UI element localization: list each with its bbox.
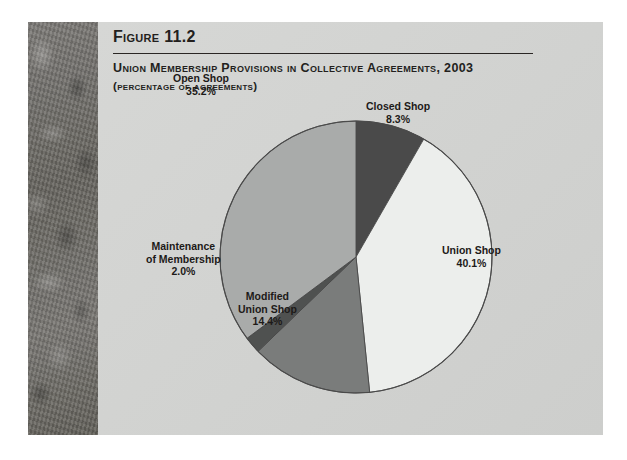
slice-label-value: 40.1%: [442, 257, 501, 270]
slice-label-value: 14.4%: [238, 315, 297, 328]
slice-label-name: Open Shop: [173, 72, 229, 84]
slice-label-name-line1: Maintenance: [152, 240, 216, 252]
slice-label-modified-union-shop: Modified Union Shop 14.4%: [238, 290, 297, 328]
slice-label-closed-shop: Closed Shop 8.3%: [366, 100, 430, 125]
slice-label-open-shop: Open Shop 35.2%: [173, 72, 229, 97]
slice-label-value: 35.2%: [173, 85, 229, 98]
slice-label-name: Closed Shop: [366, 100, 430, 112]
slice-label-union-shop: Union Shop 40.1%: [442, 244, 501, 269]
pie-chart: Closed Shop 8.3% Union Shop 40.1% Modifi…: [98, 22, 603, 435]
slice-label-name: Union Shop: [442, 244, 501, 256]
slice-label-name-line2: Union Shop: [238, 303, 297, 316]
slice-label-name-line2: of Membership: [146, 253, 221, 266]
figure-page: Figure 11.2 Union Membership Provisions …: [0, 0, 627, 460]
slice-label-name-line1: Modified: [246, 290, 289, 302]
slice-label-value: 8.3%: [366, 113, 430, 126]
figure-panel: Figure 11.2 Union Membership Provisions …: [98, 22, 603, 435]
slice-label-value: 2.0%: [146, 265, 221, 278]
slice-label-maintenance-of-membership: Maintenance of Membership 2.0%: [146, 240, 221, 278]
decorative-texture-spine: [28, 22, 98, 435]
